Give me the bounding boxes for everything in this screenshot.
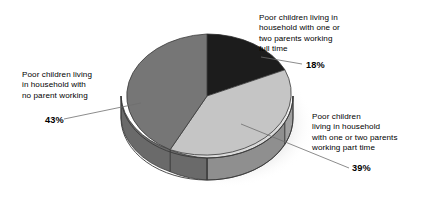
slice-label-full-time: Poor children living in household with o…: [259, 13, 379, 55]
pie-chart-figure: Poor children living in household with o…: [0, 0, 448, 202]
slice-percent-part-time: 39%: [352, 163, 371, 173]
slice-percent-full-time: 18%: [306, 60, 325, 70]
slice-percent-no-parent: 43%: [45, 115, 64, 125]
slice-label-no-parent: Poor children living in household with n…: [22, 70, 138, 101]
slice-label-part-time: Poor children living in household with o…: [312, 112, 430, 154]
